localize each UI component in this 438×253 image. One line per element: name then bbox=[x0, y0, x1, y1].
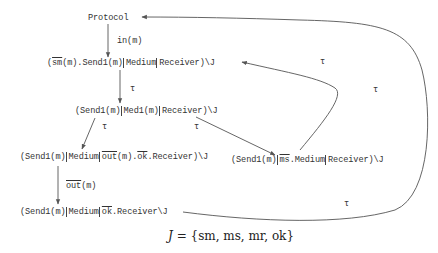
edge-label-in: in(m) bbox=[117, 36, 142, 46]
parallel-bar bbox=[123, 58, 125, 68]
n2-text: (m).Send1(m) bbox=[62, 58, 123, 68]
edge-n6-to-protocol bbox=[142, 17, 428, 220]
restriction-set-formula: J = {sm, ms, mr, ok} bbox=[168, 229, 294, 243]
formula-eq: = bbox=[173, 229, 191, 243]
n2-text: Receiver)\J bbox=[159, 58, 215, 68]
edge-label-tau-n5-n2: τ bbox=[320, 57, 325, 67]
n3-text: Receiver)\J bbox=[162, 106, 218, 116]
edge-label-tau-n3-n5: τ bbox=[194, 122, 199, 132]
n4-text: Medium bbox=[69, 152, 99, 162]
n4-text: (m). bbox=[117, 152, 137, 162]
node-n4: (Send1(m)Mediumout(m).ok.Receiver)\J bbox=[20, 152, 208, 162]
edge-label-tau-n2-n3: τ bbox=[130, 84, 135, 94]
n3-text: Med1(m) bbox=[124, 106, 159, 116]
edge-label-out-bar: out bbox=[66, 181, 81, 191]
edge-label-tau-n3-n4: τ bbox=[102, 122, 107, 132]
edge-n3-to-n5 bbox=[196, 117, 275, 155]
formula-rhs: {sm, ms, mr, ok} bbox=[191, 229, 295, 243]
node-protocol-label: Protocol bbox=[88, 13, 128, 23]
node-n3: (Send1(m)Med1(m)Receiver)\J bbox=[75, 106, 218, 116]
node-n6: (Send1(m)Mediumok.Receiver\J bbox=[20, 207, 168, 217]
parallel-bar bbox=[99, 152, 101, 162]
n5-text: (Send1(m) bbox=[231, 155, 277, 165]
parallel-bar bbox=[99, 207, 101, 217]
parallel-bar bbox=[66, 152, 68, 162]
n5-co-action: ms bbox=[280, 155, 290, 165]
parallel-bar bbox=[277, 155, 279, 165]
n6-text: .Receiver\J bbox=[112, 207, 168, 217]
n4-text: .Receiver)\J bbox=[147, 152, 208, 162]
parallel-bar bbox=[325, 155, 327, 165]
edge-n3-to-n4 bbox=[82, 118, 95, 149]
node-protocol: Protocol bbox=[88, 13, 128, 23]
node-n5: (Send1(m)ms.MediumReceiver)\J bbox=[231, 155, 384, 165]
n6-co-action: ok bbox=[102, 207, 112, 217]
n6-text: (Send1(m) bbox=[20, 207, 66, 217]
n3-text: (Send1(m) bbox=[75, 106, 121, 116]
edge-label-out-rest: (m) bbox=[81, 181, 96, 191]
n5-text: Receiver)\J bbox=[328, 155, 384, 165]
n2-text: Medium bbox=[126, 58, 156, 68]
edge-label-tau-loop-bottom: τ bbox=[344, 199, 349, 209]
n6-text: Medium bbox=[69, 207, 99, 217]
parallel-bar bbox=[159, 106, 161, 116]
parallel-bar bbox=[121, 106, 123, 116]
n4-text: (Send1(m) bbox=[20, 152, 66, 162]
edge-n5-to-n2 bbox=[242, 62, 338, 150]
parallel-bar bbox=[156, 58, 158, 68]
edge-label-out: out(m) bbox=[66, 181, 96, 191]
n2-co-action: sm bbox=[52, 58, 62, 68]
n4-co-action: out bbox=[102, 152, 117, 162]
n4-co-action: ok bbox=[137, 152, 147, 162]
parallel-bar bbox=[66, 207, 68, 217]
node-n2: (sm(m).Send1(m)MediumReceiver)\J bbox=[47, 58, 215, 68]
edge-label-tau-loop-top: τ bbox=[373, 85, 378, 95]
n5-text: .Medium bbox=[290, 155, 325, 165]
